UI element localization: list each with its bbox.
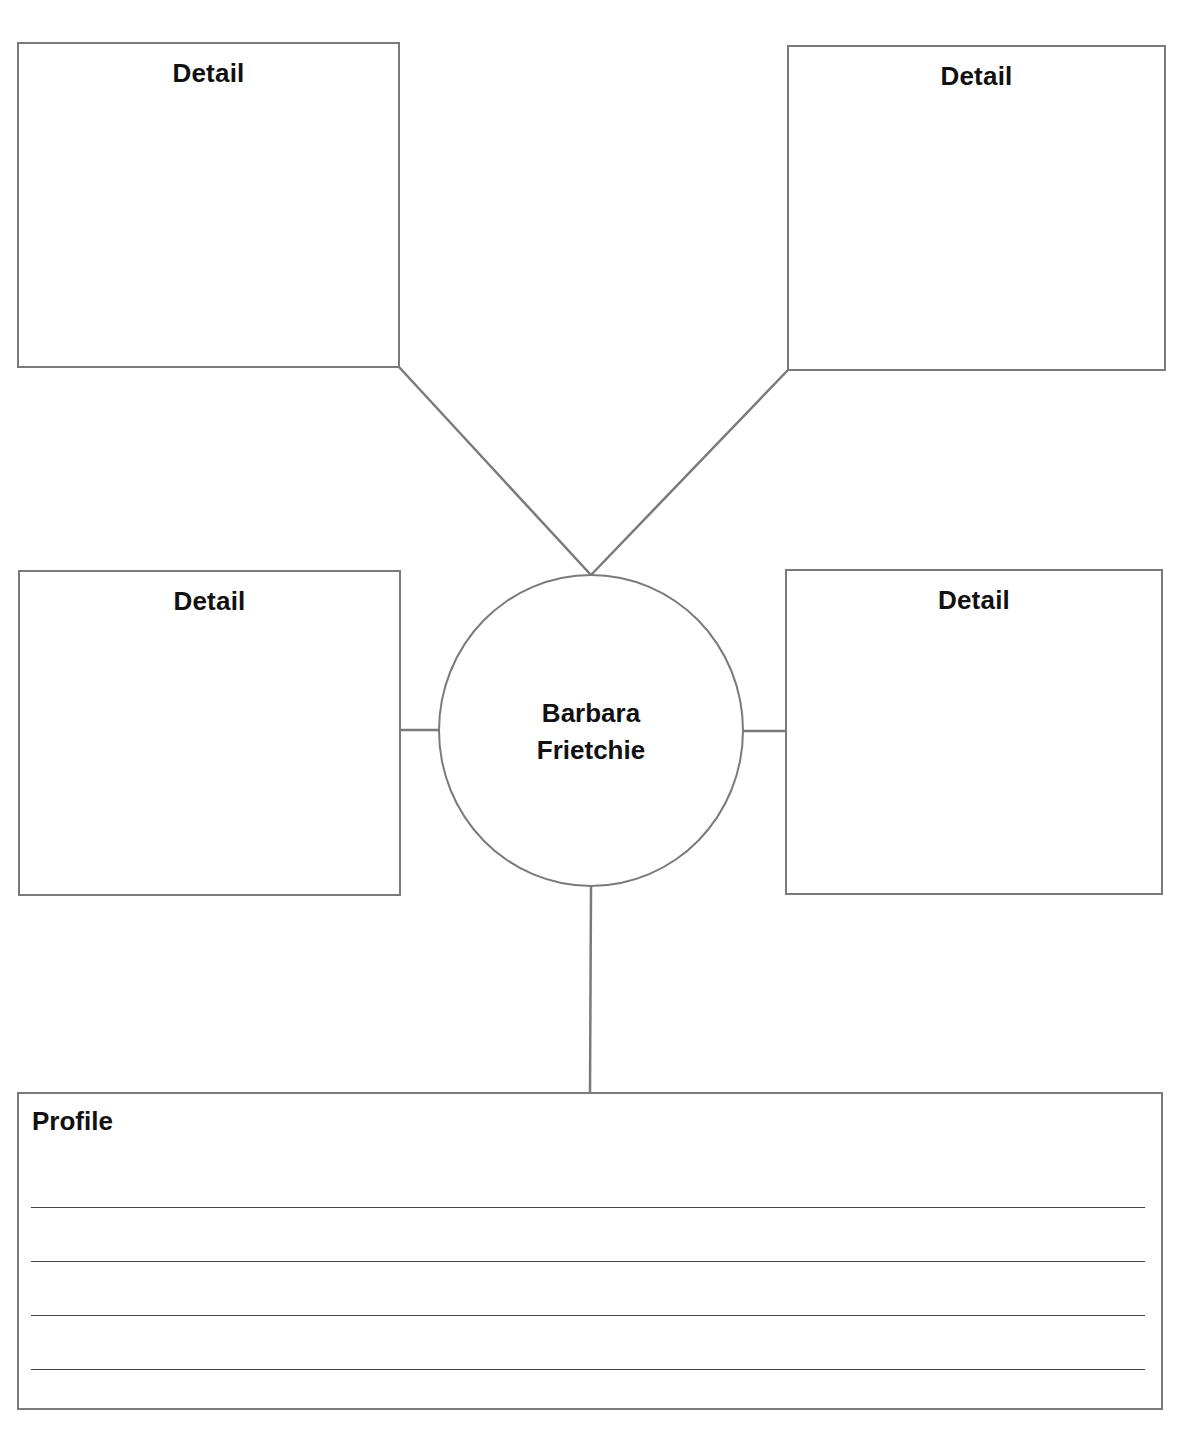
detail-box-title: Detail (787, 585, 1161, 616)
connector-top-right (591, 370, 788, 575)
central-topic-label: Barbara Frietchie (537, 695, 645, 769)
detail-box-middle-right: Detail (785, 569, 1163, 895)
detail-box-title: Detail (20, 586, 399, 617)
central-topic-line-2: Frietchie (537, 732, 645, 769)
central-topic-line-1: Barbara (537, 695, 645, 732)
profile-writing-line-3[interactable] (31, 1315, 1145, 1316)
profile-writing-line-2[interactable] (31, 1261, 1145, 1262)
profile-title: Profile (32, 1106, 113, 1137)
profile-box: Profile (17, 1092, 1163, 1410)
profile-writing-line-1[interactable] (31, 1207, 1145, 1208)
detail-box-title: Detail (789, 61, 1164, 92)
connector-top-left (399, 367, 591, 575)
detail-box-top-left: Detail (17, 42, 400, 368)
detail-box-middle-left: Detail (18, 570, 401, 896)
central-topic-circle: Barbara Frietchie (438, 574, 744, 887)
detail-box-top-right: Detail (787, 45, 1166, 371)
profile-writing-line-4[interactable] (31, 1369, 1145, 1370)
detail-box-title: Detail (19, 58, 398, 89)
connector-bottom (590, 886, 591, 1093)
